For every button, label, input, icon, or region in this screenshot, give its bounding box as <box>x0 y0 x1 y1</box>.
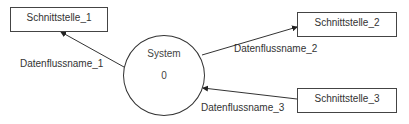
interface-label-1: Schnittstelle_1 <box>26 12 91 23</box>
interface-label-2: Schnittstelle_2 <box>314 17 379 28</box>
interface-box-1[interactable]: Schnittstelle_1 <box>10 7 108 32</box>
flow-label-1: Datenflussname_1 <box>20 58 103 69</box>
system-name: System <box>123 48 205 59</box>
interface-box-3[interactable]: Schnittstelle_3 <box>297 88 397 113</box>
interface-label-3: Schnittstelle_3 <box>314 93 379 104</box>
system-number: 0 <box>123 70 205 81</box>
flow-arrow-3 <box>203 88 297 99</box>
flow-label-3: Datenflussname_3 <box>201 102 284 113</box>
interface-box-2[interactable]: Schnittstelle_2 <box>297 12 397 37</box>
flow-label-2: Datenflussname_2 <box>234 43 317 54</box>
